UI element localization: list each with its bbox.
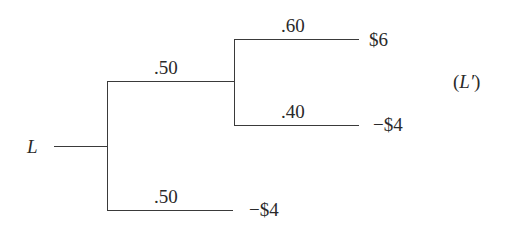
upper-branch-probability: .50 <box>154 58 178 77</box>
upper-bottom-outcome: −$4 <box>373 115 403 134</box>
root-label: L <box>27 137 38 156</box>
root-stem-line <box>54 146 108 147</box>
lower-branch-outcome: −$4 <box>249 200 279 219</box>
upper-bottom-branch-line <box>234 125 359 126</box>
upper-top-outcome: $6 <box>369 30 388 49</box>
compound-lottery-label-text: (L′) <box>453 71 480 92</box>
compound-lottery-symbol: L′ <box>459 71 474 92</box>
lower-branch-line <box>107 210 233 211</box>
upper-bottom-probability: .40 <box>281 102 305 121</box>
chance-node-1-vertical <box>107 81 108 211</box>
compound-lottery-label: (L′) <box>453 72 480 91</box>
upper-top-branch-line <box>234 39 359 40</box>
upper-top-probability: .60 <box>281 16 305 35</box>
upper-branch-line <box>107 81 235 82</box>
lower-branch-probability: .50 <box>154 187 178 206</box>
chance-node-2-vertical <box>234 39 235 126</box>
lottery-tree-diagram: L .50 .50 −$4 .60 $6 .40 −$4 (L′) <box>0 0 518 240</box>
